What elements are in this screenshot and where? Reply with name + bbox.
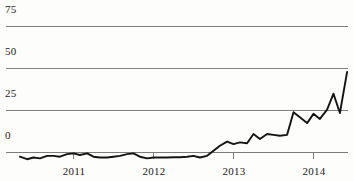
gridlines — [6, 27, 348, 153]
data-series-line — [20, 72, 347, 159]
line-chart: 75 50 25 0 2011 2012 2013 2014 — [0, 0, 354, 181]
plot-area — [0, 0, 354, 181]
